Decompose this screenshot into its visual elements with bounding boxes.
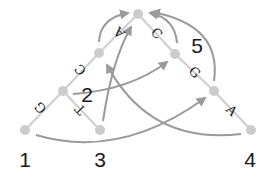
node-2 xyxy=(58,86,68,96)
stem-lines xyxy=(25,14,251,130)
node-5 xyxy=(209,86,219,96)
label-1: 1 xyxy=(19,148,31,171)
number-labels: 1 2 3 4 5 xyxy=(19,34,256,171)
node-c xyxy=(170,49,180,59)
letter-g-1: G xyxy=(31,99,49,117)
label-5: 5 xyxy=(191,34,203,57)
node-b xyxy=(94,48,104,58)
arcs xyxy=(36,12,241,142)
label-2: 2 xyxy=(81,83,93,106)
node-4 xyxy=(246,125,256,135)
arc-diagram: G C A C G A T 1 2 3 4 5 xyxy=(0,0,266,183)
arc-d-to-top xyxy=(152,12,215,81)
nodes xyxy=(20,9,256,135)
arc-1-to-d xyxy=(36,98,205,142)
label-3: 3 xyxy=(94,148,106,171)
arc-4-to-b xyxy=(107,65,241,135)
label-4: 4 xyxy=(244,148,256,171)
node-3 xyxy=(95,125,105,135)
node-top xyxy=(133,9,143,19)
node-1 xyxy=(20,125,30,135)
letter-c-1: C xyxy=(71,61,89,79)
